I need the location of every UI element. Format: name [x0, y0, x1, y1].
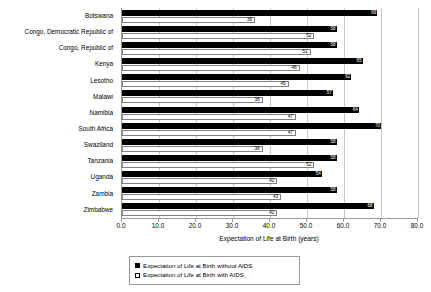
- bar-without-aids: 62: [122, 74, 351, 80]
- category-label: Uganda: [0, 170, 117, 186]
- category-label: Congo, Democratic Republic of: [0, 24, 117, 40]
- bar-row: 42: [122, 210, 418, 216]
- x-tick-label: 10.0: [152, 223, 164, 229]
- legend-entry: Expectation of Life at Birth with AIDS: [135, 272, 299, 278]
- bar-without-aids: 65: [122, 58, 363, 64]
- bar-group: 6936: [122, 8, 418, 24]
- x-tick-label: 80.0: [411, 223, 423, 229]
- bar-value-label: 54: [316, 172, 321, 177]
- bar-value-label: 52: [306, 33, 311, 38]
- bar-with-aids: 45: [122, 81, 289, 87]
- bar-with-aids: 43: [122, 194, 281, 200]
- bar-row: 58: [122, 155, 418, 161]
- category-label: South Africa: [0, 121, 117, 137]
- x-axis-title: Expectation of Life at Birth (years): [121, 236, 417, 243]
- plot-area: 6936585258516548624557386447704758385852…: [121, 8, 418, 219]
- bar-group: 5838: [122, 137, 418, 153]
- bar-value-label: 65: [356, 59, 361, 64]
- category-label: Swaziland: [0, 137, 117, 153]
- bar-value-label: 58: [330, 43, 335, 48]
- bar-row: 58: [122, 187, 418, 193]
- bar-value-label: 69: [371, 10, 376, 15]
- x-tick-label: 50.0: [300, 223, 312, 229]
- bar-group: 5851: [122, 40, 418, 56]
- bar-row: 58: [122, 139, 418, 145]
- bar-without-aids: 58: [122, 187, 337, 193]
- category-label: Botswana: [0, 8, 117, 24]
- bar-value-label: 42: [269, 179, 274, 184]
- bar-value-label: 51: [303, 50, 308, 55]
- bar-without-aids: 58: [122, 42, 337, 48]
- bar-without-aids: 70: [122, 123, 381, 129]
- bar-row: 48: [122, 65, 418, 71]
- bar-without-aids: 57: [122, 90, 333, 96]
- bar-value-label: 68: [367, 204, 372, 209]
- x-tick-label: 60.0: [337, 223, 349, 229]
- bar-with-aids: 52: [122, 33, 314, 39]
- bar-value-label: 70: [375, 123, 380, 128]
- category-label: Congo, Republic of: [0, 40, 117, 56]
- bar-value-label: 43: [273, 195, 278, 200]
- x-tick-label: 70.0: [374, 223, 386, 229]
- bar-group: 5852: [122, 24, 418, 40]
- category-label: Malawi: [0, 89, 117, 105]
- bar-row: 54: [122, 171, 418, 177]
- bar-with-aids: 52: [122, 162, 314, 168]
- category-label: Zimbabwe: [0, 202, 117, 218]
- bar-row: 47: [122, 130, 418, 136]
- bar-value-label: 57: [327, 91, 332, 96]
- x-axis-ticks: 0.010.020.030.040.050.060.070.080.0: [121, 219, 417, 229]
- bar-row: 51: [122, 49, 418, 55]
- legend-swatch-hollow-icon: [135, 273, 140, 278]
- bar-row: 47: [122, 114, 418, 120]
- bar-group: 6548: [122, 56, 418, 72]
- bar-group: 6842: [122, 202, 418, 218]
- category-label: Zambia: [0, 186, 117, 202]
- bar-group: 7047: [122, 121, 418, 137]
- bar-row: 68: [122, 203, 418, 209]
- x-tick-label: 30.0: [226, 223, 238, 229]
- bar-group: 5843: [122, 186, 418, 202]
- bar-without-aids: 58: [122, 155, 337, 161]
- category-label: Tanzania: [0, 153, 117, 169]
- chart-legend: Expectation of Life at Birth without AID…: [129, 256, 300, 285]
- bar-value-label: 64: [353, 107, 358, 112]
- legend-label: Expectation of Life at Birth without AID…: [143, 263, 252, 269]
- bar-with-aids: 38: [122, 97, 263, 103]
- bar-value-label: 62: [345, 75, 350, 80]
- bar-value-label: 58: [330, 26, 335, 31]
- bar-with-aids: 47: [122, 114, 296, 120]
- bar-without-aids: 58: [122, 26, 337, 32]
- bar-with-aids: 42: [122, 178, 277, 184]
- bar-groups: 6936585258516548624557386447704758385852…: [122, 8, 418, 218]
- legend-label: Expectation of Life at Birth with AIDS: [143, 272, 244, 278]
- category-label: Namibia: [0, 105, 117, 121]
- bar-row: 45: [122, 81, 418, 87]
- bar-row: 70: [122, 123, 418, 129]
- bar-group: 5738: [122, 89, 418, 105]
- bar-value-label: 58: [330, 140, 335, 145]
- category-axis: BotswanaCongo, Democratic Republic ofCon…: [0, 8, 117, 218]
- bar-value-label: 58: [330, 188, 335, 193]
- category-label: Kenya: [0, 56, 117, 72]
- x-tick-label: 20.0: [189, 223, 201, 229]
- bar-row: 57: [122, 90, 418, 96]
- legend-entry: Expectation of Life at Birth without AID…: [135, 263, 299, 269]
- bar-row: 38: [122, 146, 418, 152]
- bar-with-aids: 51: [122, 49, 311, 55]
- bar-value-label: 47: [288, 114, 293, 119]
- bar-row: 58: [122, 26, 418, 32]
- bar-without-aids: 69: [122, 10, 377, 16]
- legend-swatch-filled-icon: [135, 263, 140, 268]
- bar-row: 64: [122, 107, 418, 113]
- bar-without-aids: 68: [122, 203, 374, 209]
- bar-with-aids: 42: [122, 210, 277, 216]
- bar-row: 69: [122, 10, 418, 16]
- bar-row: 52: [122, 162, 418, 168]
- bar-value-label: 47: [288, 130, 293, 135]
- bar-value-label: 52: [306, 163, 311, 168]
- bar-group: 6245: [122, 73, 418, 89]
- bar-with-aids: 48: [122, 65, 300, 71]
- x-tick-label: 0.0: [117, 223, 126, 229]
- bar-value-label: 38: [254, 147, 259, 152]
